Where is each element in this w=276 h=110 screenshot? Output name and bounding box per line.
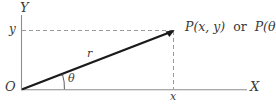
coordinate-diagram: Y X O y x r θ P(x, y) or P(θ, r) (0, 0, 276, 110)
theta-arc (63, 75, 65, 90)
point-label-polar: P(θ, r) (255, 19, 276, 34)
angle-theta-label: θ (68, 73, 75, 84)
y-axis-label: Y (20, 1, 29, 14)
point-label-cartesian: P(x, y) (185, 19, 225, 34)
diagram-canvas (0, 0, 276, 110)
point-label-conjunction: or (233, 19, 247, 34)
point-label-group: P(x, y) or P(θ, r) (185, 21, 276, 34)
y-value-label: y (9, 23, 16, 35)
x-value-label: x (170, 91, 176, 102)
radius-ray (23, 32, 172, 90)
x-axis-label: X (250, 80, 259, 93)
radius-label: r (87, 48, 92, 59)
origin-label: O (5, 80, 16, 93)
